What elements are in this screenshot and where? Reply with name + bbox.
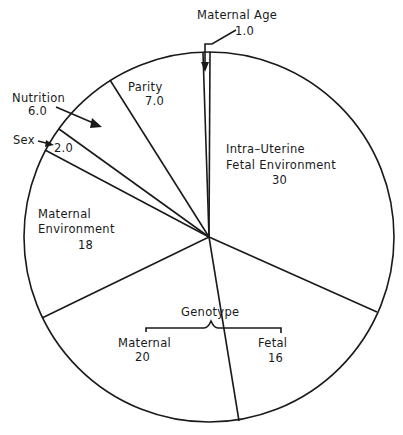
label-sex: Sex xyxy=(13,133,35,147)
label-genotype: Genotype xyxy=(181,305,239,319)
value-nutrition: 6.0 xyxy=(28,104,47,118)
boundary-fetal-intrauterine xyxy=(209,237,377,312)
value-maternal-age: 1.0 xyxy=(235,24,254,38)
label-nutrition: Nutrition xyxy=(12,91,65,105)
label-maternal-age: Maternal Age xyxy=(197,8,277,22)
label-maternal-genotype: Maternal xyxy=(118,336,171,350)
label-fetal-genotype: Fetal xyxy=(258,336,287,350)
value-fetal-genotype: 16 xyxy=(268,351,283,365)
value-intra-uterine: 30 xyxy=(272,173,287,187)
maternal-age-arrowhead xyxy=(201,62,209,72)
value-parity: 7.0 xyxy=(145,94,164,108)
genotype-bracket xyxy=(146,321,281,333)
label-intra-uterine-2: Fetal Environment xyxy=(226,158,336,172)
label-maternal-env-2: Environment xyxy=(38,222,115,236)
boundary-maternal-fetal xyxy=(209,237,239,421)
value-maternal-env: 18 xyxy=(78,238,93,252)
label-parity: Parity xyxy=(128,80,163,94)
value-sex: 2.0 xyxy=(54,141,73,155)
boundary-maternal-age-left xyxy=(203,53,209,237)
label-maternal-env-1: Maternal xyxy=(38,207,91,221)
nutrition-arrowhead xyxy=(90,118,102,128)
value-maternal-genotype: 20 xyxy=(135,350,150,364)
label-intra-uterine-1: Intra–Uterine xyxy=(226,142,305,156)
sex-arrowhead xyxy=(45,140,54,147)
boundary-maternal-age-right xyxy=(209,52,210,237)
